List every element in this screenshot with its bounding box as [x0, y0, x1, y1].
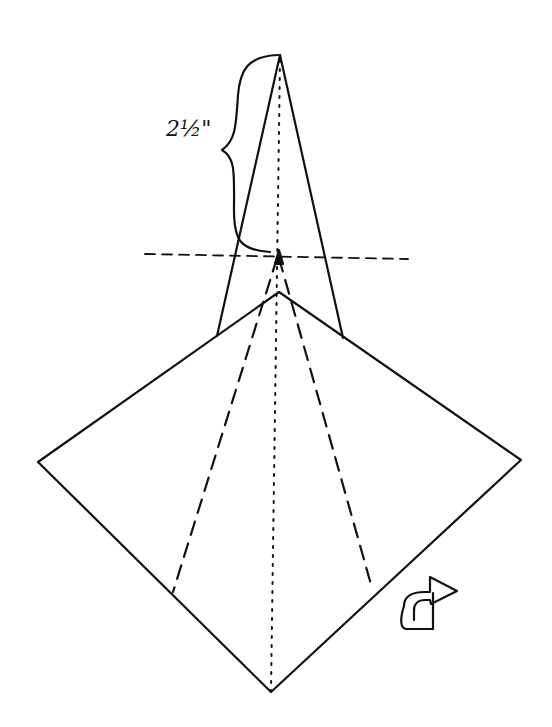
flap-right-edge — [280, 55, 343, 338]
valley-fold-left — [173, 258, 277, 592]
measurement-label: 2½" — [166, 116, 211, 141]
turn-over-arrow-icon — [401, 577, 457, 629]
diamond-base — [38, 292, 521, 692]
center-dotted-line — [271, 60, 280, 690]
point-marker — [275, 250, 283, 264]
valley-fold-right — [279, 258, 372, 588]
measurement-brace — [222, 55, 278, 252]
flap-left-edge — [217, 55, 280, 336]
fold-diagram — [0, 0, 552, 727]
